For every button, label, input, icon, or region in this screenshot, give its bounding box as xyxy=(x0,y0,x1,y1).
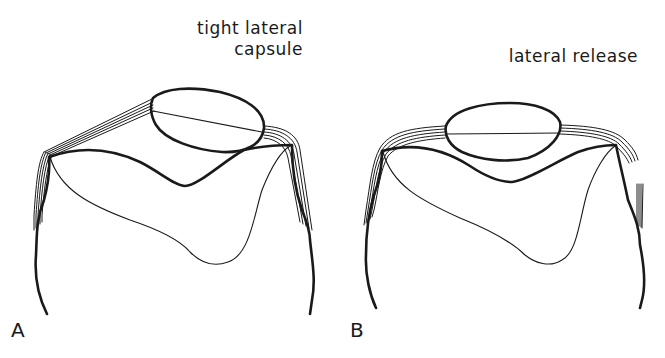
patella-outline xyxy=(446,103,561,160)
femur-outline xyxy=(366,145,644,308)
femur-outline xyxy=(36,145,314,314)
capsule-fibers-right-released xyxy=(560,125,643,228)
panel-label-b: B xyxy=(350,318,364,342)
caption-a-line-2: capsule xyxy=(197,39,303,60)
caption-b-line-1: lateral release xyxy=(509,46,638,67)
capsule-fibers-left xyxy=(34,99,154,230)
capsule-fibers-left xyxy=(364,126,445,225)
caption-a: tight lateral capsule xyxy=(197,18,303,60)
caption-a-line-1: tight lateral xyxy=(197,18,303,39)
panel-a-tight-lateral-capsule: tight lateral capsule A xyxy=(0,0,330,358)
patella-articular-line xyxy=(446,133,559,134)
caption-b: lateral release xyxy=(509,46,638,67)
panel-label-a: A xyxy=(11,318,25,342)
intercondylar-line xyxy=(50,146,290,264)
patella-articular-line xyxy=(153,111,262,132)
panel-b-lateral-release: lateral release B xyxy=(330,0,665,358)
patella-outline xyxy=(151,89,264,152)
intercondylar-line xyxy=(383,146,615,264)
